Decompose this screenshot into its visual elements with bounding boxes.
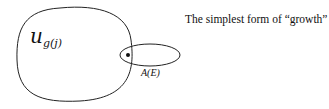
large-set-label-main: u [30,24,43,48]
large-set-label-subscript: g(j) [43,37,62,50]
small-set-label: A(E) [141,67,160,78]
large-set-label: ug(j) [30,26,62,49]
diagram-caption: The simplest form of “growth” [185,13,327,25]
point-dot [126,53,130,57]
large-set-boundary [17,7,132,101]
